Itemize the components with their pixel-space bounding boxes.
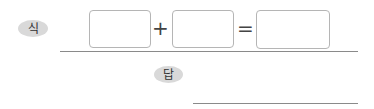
answer-write-line[interactable] (193, 103, 358, 104)
plus-sign: + (152, 16, 168, 40)
addend-1-input-box[interactable] (89, 10, 151, 48)
formula-underline (60, 51, 358, 52)
sum-input-box[interactable] (256, 10, 330, 49)
addend-2-input-box[interactable] (172, 10, 234, 48)
answer-label-badge: 답 (154, 66, 183, 83)
formula-label-badge: 식 (18, 20, 48, 37)
equals-sign: = (237, 16, 253, 40)
